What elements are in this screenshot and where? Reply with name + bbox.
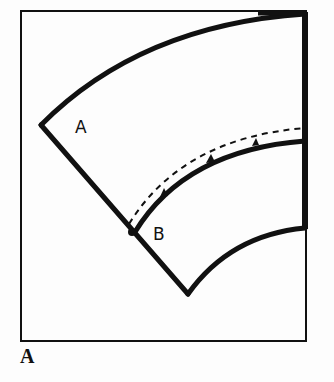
notch-mark-2: [206, 154, 215, 163]
figure-caption: A: [20, 345, 34, 368]
junction-point: [128, 228, 136, 236]
frame: [21, 11, 306, 341]
piece-b-bottom-curve: [188, 228, 305, 294]
notch-mark-3: [252, 138, 259, 146]
label-piece-b: B: [153, 224, 165, 244]
piece-a-left-edge: [41, 125, 188, 294]
label-piece-a: A: [75, 117, 87, 137]
piece-a-top-curve: [41, 14, 305, 125]
pattern-diagram: A B: [0, 0, 334, 382]
